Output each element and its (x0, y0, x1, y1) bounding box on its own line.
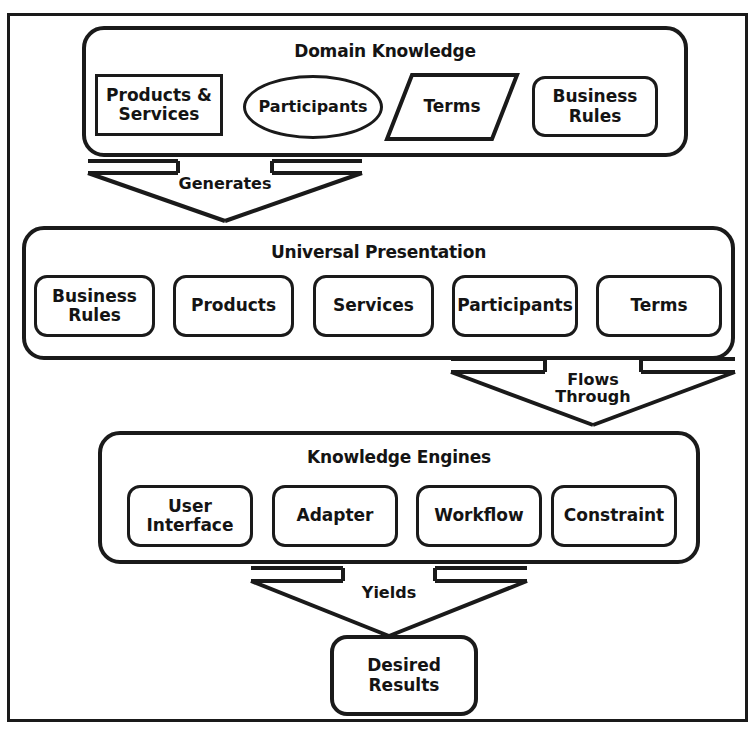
node-workflow[interactable]: Workflow (416, 485, 542, 547)
node-label-desired-results: Desired Results (367, 656, 441, 694)
node-products-up[interactable]: Products (173, 275, 294, 337)
node-terms-up[interactable]: Terms (596, 275, 722, 337)
node-user-interface[interactable]: User Interface (127, 485, 253, 547)
node-participants-up[interactable]: Participants (452, 275, 578, 337)
node-label-business-rules-up: Business Rules (52, 287, 137, 325)
node-label-constraint: Constraint (564, 506, 664, 525)
node-services-up[interactable]: Services (313, 275, 434, 337)
node-label-user-interface: User Interface (147, 497, 234, 535)
node-label-products-and-services: Products & Services (106, 86, 212, 124)
diagram-canvas: Domain Knowledge Products & Services Par… (0, 0, 755, 730)
node-label-adapter: Adapter (296, 506, 373, 525)
connector-generates: Generates (80, 155, 370, 227)
node-participants-domain[interactable]: Participants (243, 75, 383, 139)
node-products-and-services[interactable]: Products & Services (95, 74, 223, 136)
connector-yields: Yields (243, 562, 535, 640)
group-title-knowledge-engines: Knowledge Engines (102, 447, 696, 467)
node-constraint[interactable]: Constraint (551, 485, 677, 547)
node-label-terms-domain: Terms (423, 97, 480, 116)
group-title-domain-knowledge: Domain Knowledge (86, 41, 684, 61)
connector-flows-through: Flows Through (443, 353, 743, 431)
node-label-business-rules-domain: Business Rules (553, 87, 638, 125)
node-business-rules-domain[interactable]: Business Rules (532, 76, 658, 137)
node-terms-domain[interactable]: Terms (384, 72, 520, 142)
group-title-universal-presentation: Universal Presentation (26, 242, 731, 262)
node-label-products-up: Products (191, 296, 276, 315)
node-label-participants-domain: Participants (259, 98, 368, 116)
connector-label-yields: Yields (243, 584, 535, 601)
node-label-participants-up: Participants (457, 296, 573, 315)
node-label-workflow: Workflow (434, 506, 524, 525)
connector-label-generates: Generates (80, 175, 370, 192)
connector-label-flows-through: Flows Through (443, 371, 743, 406)
node-adapter[interactable]: Adapter (272, 485, 398, 547)
node-label-terms-up: Terms (630, 296, 687, 315)
node-label-services-up: Services (333, 296, 414, 315)
node-desired-results[interactable]: Desired Results (330, 635, 478, 716)
node-business-rules-up[interactable]: Business Rules (34, 275, 155, 337)
